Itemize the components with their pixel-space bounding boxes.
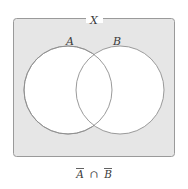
venn-diagram-figure: X A B A ∩ B xyxy=(0,0,188,189)
set-b-circle xyxy=(76,46,164,134)
set-b-label: B xyxy=(112,35,121,48)
universal-set-label: X xyxy=(89,14,99,27)
caption-right-operand: B xyxy=(103,168,112,180)
caption-group: A ∩ B xyxy=(75,168,112,180)
caption-operator: ∩ xyxy=(90,168,99,180)
venn-diagram-canvas: X A B A ∩ B xyxy=(0,0,188,189)
set-a-label: A xyxy=(65,35,74,48)
caption-left-operand: A xyxy=(75,168,84,180)
